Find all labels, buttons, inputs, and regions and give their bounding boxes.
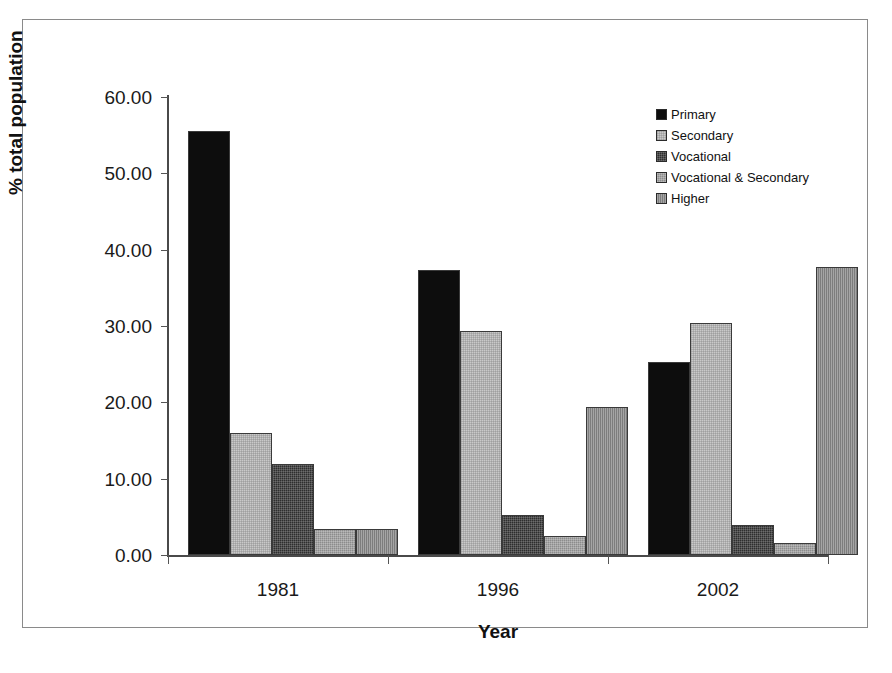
bar-1981-higher [356, 529, 398, 555]
y-tick-60: 60.00 [161, 97, 168, 98]
y-tick-10: 10.00 [161, 479, 168, 480]
x-tick-label-1981: 1981 [257, 579, 299, 601]
legend-label-vocational-secondary: Vocational & Secondary [671, 171, 809, 184]
bar-1981-secondary [230, 433, 272, 555]
bar-2002-primary [648, 362, 690, 555]
x-tick-label-1996: 1996 [477, 579, 519, 601]
bar-2002-secondary [690, 323, 732, 555]
bar-1996-primary [418, 270, 460, 555]
y-tick-label-20: 20.00 [104, 393, 152, 412]
bar-1996-vocational-secondary [544, 536, 586, 555]
y-tick-30: 30.00 [161, 326, 168, 327]
y-tick-20: 20.00 [161, 402, 168, 403]
bar-1996-higher [586, 407, 628, 555]
bar-2002-higher [816, 267, 858, 556]
legend-label-secondary: Secondary [671, 129, 733, 142]
legend-label-primary: Primary [671, 108, 716, 121]
bar-2002-vocational-secondary [774, 543, 816, 555]
bar-1981-vocational [272, 464, 314, 555]
chart-frame: % total population 0.00 10.00 20.00 30.0… [22, 19, 868, 628]
bar-1981-vocational-secondary [314, 529, 356, 555]
y-tick-0: 0.00 [161, 555, 168, 556]
legend-swatch-vocational-icon [656, 151, 667, 162]
y-tick-label-60: 60.00 [104, 88, 152, 107]
x-axis-title: Year [168, 621, 828, 643]
legend-label-higher: Higher [671, 192, 709, 205]
y-tick-label-30: 30.00 [104, 317, 152, 336]
legend-item-primary: Primary [656, 104, 809, 125]
legend-swatch-higher-icon [656, 193, 667, 204]
y-tick-label-40: 40.00 [104, 240, 152, 259]
legend-label-vocational: Vocational [671, 150, 731, 163]
y-axis-title: % total population [5, 30, 27, 195]
y-tick-label-0: 0.00 [115, 546, 152, 565]
x-tick-end [828, 555, 829, 564]
bar-1996-secondary [460, 331, 502, 555]
legend-item-vocational: Vocational [656, 146, 809, 167]
x-tick-2 [608, 555, 609, 564]
x-axis-line [167, 555, 829, 557]
bar-2002-vocational [732, 525, 774, 555]
bar-1996-vocational [502, 515, 544, 555]
legend-swatch-vocational-secondary-icon [656, 172, 667, 183]
legend-item-higher: Higher [656, 188, 809, 209]
y-tick-label-50: 50.00 [104, 164, 152, 183]
bar-1981-primary [188, 131, 230, 555]
chart-page: % total population 0.00 10.00 20.00 30.0… [0, 0, 892, 673]
legend-swatch-secondary-icon [656, 130, 667, 141]
x-tick-1 [388, 555, 389, 564]
y-tick-label-10: 10.00 [104, 469, 152, 488]
x-tick-label-2002: 2002 [697, 579, 739, 601]
legend-item-vocational-secondary: Vocational & Secondary [656, 167, 809, 188]
y-tick-50: 50.00 [161, 173, 168, 174]
y-tick-40: 40.00 [161, 250, 168, 251]
x-tick-start [168, 555, 169, 564]
legend-item-secondary: Secondary [656, 125, 809, 146]
chart-legend: Primary Secondary Vocational Vocational … [656, 104, 809, 209]
legend-swatch-primary-icon [656, 109, 667, 120]
